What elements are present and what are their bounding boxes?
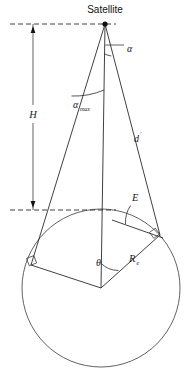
altitude-label: H [28,109,38,120]
alpha-angle-arc [105,54,112,56]
elevation-angle-label: E [131,192,139,203]
earth-radius-base: R [128,253,136,264]
altitude-arrowhead-top-icon [31,26,36,33]
slant-range-prime: ′ [140,131,142,137]
alpha-max-base: α [73,99,79,110]
satellite-label: Satellite [87,4,123,15]
max-coverage-line-left [31,24,105,265]
slant-range-label: d ′ [134,131,142,144]
earth-radius-subscript: e [137,260,140,266]
theta-angle-label: θ [96,257,101,268]
alpha-max-subscript: max [80,106,90,112]
satellite-marker-dot [102,21,107,26]
slant-range-line-right [105,24,160,235]
satellite-geometry-figure: Satellite H α α max d ′ E θ R e [0,0,192,379]
earth-radius-line-left [31,265,101,288]
theta-angle-arc [101,263,119,271]
alpha-angle-label: α [127,43,133,54]
alpha-max-angle-arc [72,90,105,96]
local-horizon-line-right [112,220,163,238]
altitude-arrowhead-bottom-icon [31,201,36,208]
nadir-line-satellite-to-center [101,24,105,288]
